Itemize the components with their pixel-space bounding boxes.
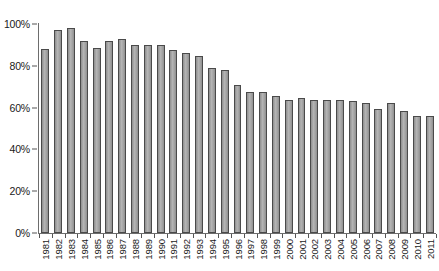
bar (105, 41, 113, 233)
bar-slot (208, 24, 216, 233)
x-tick-mark (410, 234, 411, 238)
x-tick-mark (372, 234, 373, 238)
bar-slot (323, 24, 331, 233)
bar-slot (336, 24, 344, 233)
x-tick-label: 1998 (258, 239, 269, 260)
x-tick-mark (141, 234, 142, 238)
x-tick-label: 1987 (117, 239, 128, 260)
x-tick-mark (90, 234, 91, 238)
x-tick-mark (205, 234, 206, 238)
bar (400, 111, 408, 233)
bar (131, 45, 139, 233)
x-tick-label: 1999 (271, 239, 282, 260)
bar (80, 41, 88, 233)
x-tick-label: 1985 (92, 239, 103, 260)
x-tick-mark (346, 234, 347, 238)
x-axis-ticks (39, 234, 436, 238)
y-tick-label: 60% (10, 102, 30, 114)
bar-slot (298, 24, 306, 233)
x-tick-label: 2007 (373, 239, 384, 260)
bar (285, 100, 293, 233)
x-tick-label: 1983 (66, 239, 77, 260)
x-tick-label: 1982 (53, 239, 64, 260)
x-tick-mark (52, 234, 53, 238)
x-tick-label: 2004 (335, 239, 346, 260)
bar-slot (362, 24, 370, 233)
bar (118, 39, 126, 233)
bar-slot (157, 24, 165, 233)
x-tick-label: 2009 (399, 239, 410, 260)
bar (195, 56, 203, 233)
bar (182, 53, 190, 233)
x-tick-label: 2011 (425, 239, 436, 259)
bar-slot (310, 24, 318, 233)
x-tick-label: 1994 (207, 239, 218, 260)
bar (349, 101, 357, 233)
x-tick-label: 2005 (348, 239, 359, 260)
bar (298, 98, 306, 233)
bar-slot (67, 24, 75, 233)
x-tick-mark (423, 234, 424, 238)
bar (234, 85, 242, 233)
bar (336, 100, 344, 233)
bar (144, 45, 152, 233)
bar-slot (54, 24, 62, 233)
y-tick-label: 100% (4, 18, 30, 30)
bar-slot (182, 24, 190, 233)
bar-slot (105, 24, 113, 233)
x-tick-label: 1991 (168, 239, 179, 260)
bar-slot (221, 24, 229, 233)
x-tick-label: 2006 (361, 239, 372, 260)
x-tick-label: 1988 (130, 239, 141, 260)
x-tick-label: 2001 (297, 239, 308, 260)
x-tick-label: 1996 (233, 239, 244, 260)
x-tick-mark (65, 234, 66, 238)
x-tick-label: 2003 (322, 239, 333, 260)
x-tick-mark (39, 234, 40, 238)
bar (246, 92, 254, 233)
x-tick-label: 1984 (79, 239, 90, 260)
x-tick-mark (167, 234, 168, 238)
bar (54, 30, 62, 233)
x-tick-label: 2000 (284, 239, 295, 260)
x-tick-mark (436, 234, 437, 238)
bar (259, 92, 267, 233)
bar-slot (285, 24, 293, 233)
y-tick-mark (32, 149, 37, 150)
bar-slot (131, 24, 139, 233)
x-tick-mark (282, 234, 283, 238)
x-tick-mark (129, 234, 130, 238)
bar (426, 116, 434, 233)
y-tick-mark (32, 65, 37, 66)
y-tick-label: 80% (10, 60, 30, 72)
bar (208, 68, 216, 233)
x-tick-label: 1997 (245, 239, 256, 260)
bar-slot (169, 24, 177, 233)
bar-slot (400, 24, 408, 233)
x-tick-mark (270, 234, 271, 238)
bar-slot (118, 24, 126, 233)
y-axis: 100%80%60%40%20%0% (0, 0, 38, 271)
x-tick-mark (257, 234, 258, 238)
bar-slot (234, 24, 242, 233)
x-tick-mark (154, 234, 155, 238)
x-tick-label: 1989 (143, 239, 154, 260)
x-tick-label: 2002 (309, 239, 320, 260)
x-tick-mark (359, 234, 360, 238)
bar-slot (387, 24, 395, 233)
x-tick-mark (244, 234, 245, 238)
bar (67, 28, 75, 233)
bar (323, 100, 331, 233)
x-tick-mark (116, 234, 117, 238)
x-tick-label: 1993 (194, 239, 205, 260)
x-tick-mark (398, 234, 399, 238)
y-tick-mark (32, 233, 37, 234)
plot-area (39, 24, 436, 233)
x-tick-label: 1995 (220, 239, 231, 260)
x-tick-label: 2010 (412, 239, 423, 260)
y-tick-mark (32, 191, 37, 192)
bar-slot (259, 24, 267, 233)
x-tick-mark (308, 234, 309, 238)
bar (41, 49, 49, 233)
bar-slot (144, 24, 152, 233)
